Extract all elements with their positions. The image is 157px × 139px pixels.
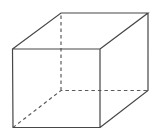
cube-figure [0, 0, 157, 139]
cube-solid-edges [13, 13, 149, 128]
figure-canvas [0, 0, 157, 139]
cube-hidden-edges [13, 13, 148, 128]
